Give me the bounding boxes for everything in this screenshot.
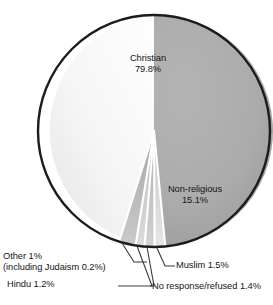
slice-label-christian: Christian 79.8%: [93, 53, 203, 75]
slice-label-muslim: Muslim 1.5%: [176, 260, 229, 271]
slice-label-hindu: Hindu 1.2%: [7, 279, 55, 290]
slice-label-non-religious-value: 15.1%: [141, 195, 249, 206]
leader-line-hindu: [118, 246, 152, 286]
leader-line-muslim: [157, 248, 175, 266]
slice-label-christian-name: Christian: [93, 53, 203, 64]
slice-label-other-note: (including Judaism 0.2%): [3, 262, 106, 273]
pie-chart: Christian 79.8% Non-religious 15.1% Othe…: [0, 0, 273, 305]
slice-label-christian-value: 79.8%: [93, 64, 203, 75]
slice-label-no-response: No response/refused 1.4%: [152, 281, 261, 292]
slice-label-other-main: Other 1%: [3, 251, 106, 262]
slice-label-non-religious: Non-religious 15.1%: [141, 184, 249, 206]
leader-lines: [118, 243, 175, 286]
slice-label-other: Other 1% (including Judaism 0.2%): [3, 251, 106, 273]
slice-label-non-religious-name: Non-religious: [141, 184, 249, 195]
